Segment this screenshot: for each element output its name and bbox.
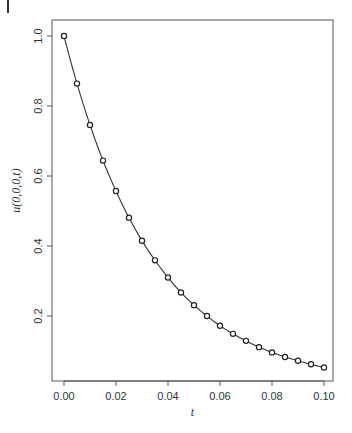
data-point xyxy=(139,238,144,243)
x-tick-label: 0.02 xyxy=(105,390,126,402)
y-tick-label: 0.6 xyxy=(32,168,44,183)
data-point xyxy=(256,345,261,350)
data-point xyxy=(165,275,170,280)
plot-area-frame xyxy=(52,20,333,381)
y-axis: 0.20.40.60.81.0 xyxy=(32,28,52,323)
data-point xyxy=(243,338,248,343)
data-point xyxy=(61,33,66,38)
x-tick-label: 0.06 xyxy=(209,390,230,402)
data-point xyxy=(204,313,209,318)
x-axis-label: t xyxy=(191,405,195,419)
y-axis-label: u(0,0,0,t) xyxy=(9,168,23,212)
data-point xyxy=(321,365,326,370)
y-tick-label: 0.4 xyxy=(32,238,44,253)
data-point xyxy=(191,303,196,308)
x-tick-label: 0.10 xyxy=(313,390,334,402)
x-tick-label: 0.04 xyxy=(157,390,178,402)
data-point xyxy=(269,350,274,355)
y-tick-label: 0.2 xyxy=(32,308,44,323)
x-tick-label: 0.00 xyxy=(53,390,74,402)
chart: 0.000.020.040.060.080.10 0.20.40.60.81.0… xyxy=(0,0,352,433)
data-point xyxy=(230,331,235,336)
data-point xyxy=(100,158,105,163)
x-tick-label: 0.08 xyxy=(261,390,282,402)
y-tick-label: 0.8 xyxy=(32,98,44,113)
data-point xyxy=(113,188,118,193)
solution-curve xyxy=(64,36,324,367)
data-point xyxy=(152,258,157,263)
data-point xyxy=(74,81,79,86)
data-point xyxy=(308,362,313,367)
data-point xyxy=(178,290,183,295)
x-axis: 0.000.020.040.060.080.10 xyxy=(53,381,334,402)
y-tick-label: 1.0 xyxy=(32,28,44,43)
data-point xyxy=(282,354,287,359)
data-point xyxy=(87,122,92,127)
data-point xyxy=(295,358,300,363)
data-point-markers xyxy=(61,33,326,370)
data-point xyxy=(126,215,131,220)
data-point xyxy=(217,323,222,328)
